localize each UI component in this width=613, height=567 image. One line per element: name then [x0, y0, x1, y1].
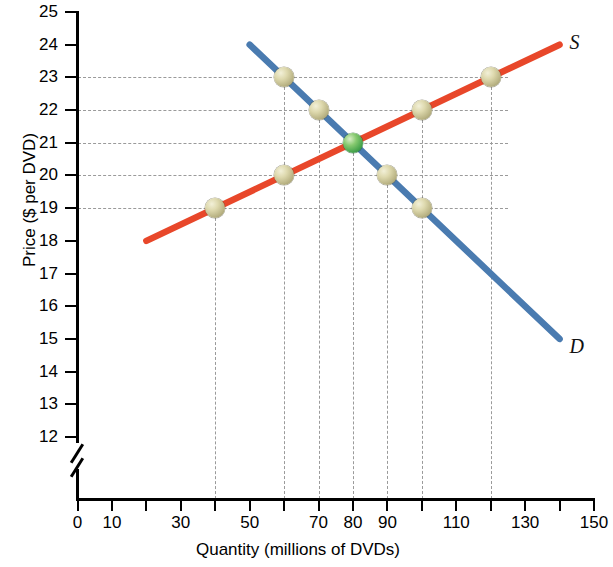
y-tick-label-24: 24 — [18, 36, 58, 53]
x-tick-label-150: 150 — [572, 514, 613, 531]
y-tick-label-21: 21 — [18, 134, 58, 151]
x-tick-label-90: 90 — [365, 514, 409, 531]
y-tick-label-19: 19 — [18, 199, 58, 216]
y-tick-label-15: 15 — [18, 330, 58, 347]
x-tick-70 — [318, 498, 320, 511]
y-tick-13 — [65, 403, 79, 405]
x-tick-0 — [77, 498, 79, 511]
x-tick-120 — [490, 498, 492, 511]
y-tick-15 — [65, 338, 79, 340]
x-tick-140 — [559, 498, 561, 511]
supply-curve-label: S — [570, 31, 580, 54]
data-point-marker-supply-100-22 — [412, 100, 432, 120]
x-tick-label-110: 110 — [434, 514, 478, 531]
x-tick-40 — [214, 498, 216, 511]
y-tick-14 — [65, 371, 79, 373]
y-tick-24 — [65, 44, 79, 46]
x-tick-label-10: 10 — [90, 514, 134, 531]
data-point-marker-demand-100-19 — [412, 198, 432, 218]
x-tick-20 — [145, 498, 147, 511]
y-tick-label-22: 22 — [18, 101, 58, 118]
x-tick-label-130: 130 — [503, 514, 547, 531]
data-point-marker-demand-70-22 — [309, 100, 329, 120]
y-tick-label-18: 18 — [18, 232, 58, 249]
y-tick-20 — [65, 174, 79, 176]
x-axis-line — [76, 498, 594, 501]
y-tick-label-16: 16 — [18, 297, 58, 314]
y-tick-label-20: 20 — [18, 166, 58, 183]
x-tick-10 — [111, 498, 113, 511]
x-tick-150 — [593, 498, 595, 511]
x-tick-110 — [455, 498, 457, 511]
y-axis-line-lower — [76, 469, 79, 501]
y-tick-label-25: 25 — [18, 3, 58, 20]
demand-curve — [250, 45, 560, 339]
x-tick-130 — [524, 498, 526, 511]
y-tick-25 — [65, 11, 79, 13]
x-tick-label-30: 30 — [159, 514, 203, 531]
x-tick-label-50: 50 — [228, 514, 272, 531]
x-tick-30 — [180, 498, 182, 511]
y-tick-23 — [65, 76, 79, 78]
data-point-marker-supply-120-23 — [481, 67, 501, 87]
y-tick-17 — [65, 273, 79, 275]
y-tick-19 — [65, 207, 79, 209]
y-tick-21 — [65, 142, 79, 144]
x-tick-50 — [249, 498, 251, 511]
x-tick-60 — [283, 498, 285, 511]
x-tick-90 — [386, 498, 388, 511]
y-tick-label-14: 14 — [18, 363, 58, 380]
equilibrium-point-marker — [343, 133, 363, 153]
x-tick-100 — [421, 498, 423, 511]
y-tick-label-23: 23 — [18, 68, 58, 85]
y-tick-label-17: 17 — [18, 265, 58, 282]
y-tick-22 — [65, 109, 79, 111]
demand-curve-label: D — [570, 335, 584, 358]
y-tick-18 — [65, 240, 79, 242]
y-tick-label-13: 13 — [18, 395, 58, 412]
x-tick-80 — [352, 498, 354, 511]
y-tick-label-12: 12 — [18, 428, 58, 445]
y-tick-16 — [65, 305, 79, 307]
y-tick-12 — [65, 436, 79, 438]
